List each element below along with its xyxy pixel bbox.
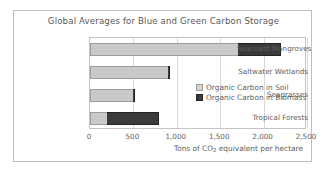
legend-swatch-biomass-icon: [196, 94, 203, 101]
bar-segment-soil[interactable]: [90, 43, 238, 56]
bar-segment-biomass[interactable]: [168, 66, 170, 79]
chart-figure-frame: Global Averages for Blue and Green Carbo…: [13, 10, 312, 162]
bar-row[interactable]: [90, 112, 159, 125]
y-axis-label-tropical-forests: Tropical Forests: [237, 113, 311, 122]
x-tick-label: 1,500: [209, 132, 230, 141]
legend-label-biomass: Organic Carbon in Biomass: [206, 93, 306, 102]
x-tick-label: 500: [126, 132, 140, 141]
bar-segment-soil[interactable]: [90, 66, 168, 79]
legend-item-biomass[interactable]: Organic Carbon in Biomass: [196, 93, 306, 102]
x-tick-label: 2,000: [252, 132, 273, 141]
x-axis-title-before: Tons of CO: [174, 144, 213, 153]
bar-row[interactable]: [90, 89, 135, 102]
x-axis-title: Tons of CO2 equivalent per hectare: [174, 144, 303, 153]
legend-item-soil[interactable]: Organic Carbon in Soil: [196, 83, 306, 92]
bar-segment-soil[interactable]: [90, 89, 133, 102]
x-tick-label: 0: [87, 132, 92, 141]
x-tick-label: 1,000: [166, 132, 187, 141]
bar-segment-biomass[interactable]: [107, 112, 159, 125]
legend-swatch-soil-icon: [196, 84, 203, 91]
y-axis-label-seacoast-mangroves: Seacoast Mangroves: [237, 44, 311, 53]
bar-segment-biomass[interactable]: [133, 89, 135, 102]
bar-segment-soil[interactable]: [90, 112, 107, 125]
chart-legend: Organic Carbon in Soil Organic Carbon in…: [196, 83, 306, 102]
x-axis-title-subscript: 2: [213, 147, 216, 153]
chart-title: Global Averages for Blue and Green Carbo…: [14, 16, 313, 26]
bar-row[interactable]: [90, 66, 170, 79]
x-axis-title-after: equivalent per hectare: [216, 144, 303, 153]
x-tick-label: 2,500: [296, 132, 317, 141]
y-axis-label-saltwater-wetlands: Saltwater Wetlands: [237, 67, 311, 76]
legend-label-soil: Organic Carbon in Soil: [206, 83, 288, 92]
